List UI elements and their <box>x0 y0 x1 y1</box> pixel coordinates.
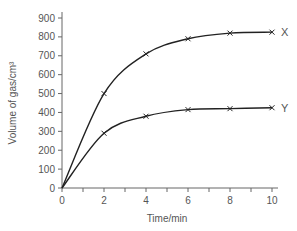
y-tick-label: 100 <box>38 164 55 175</box>
y-tick-label: 500 <box>38 88 55 99</box>
series-line-y <box>62 108 272 188</box>
y-tick-label: 400 <box>38 107 55 118</box>
x-tick-label: 0 <box>59 195 65 206</box>
data-point-marker <box>102 91 107 96</box>
x-tick-label: 10 <box>266 195 278 206</box>
line-chart: 01002003004005006007008009000246810 XY T… <box>0 0 297 231</box>
plot-area: XY <box>62 26 289 188</box>
y-tick-label: 800 <box>38 31 55 42</box>
x-tick-label: 4 <box>143 195 149 206</box>
series-label-y: Y <box>281 102 289 114</box>
y-tick-label: 300 <box>38 126 55 137</box>
x-tick-label: 8 <box>227 195 233 206</box>
data-point-marker <box>144 51 149 56</box>
x-tick-label: 2 <box>101 195 107 206</box>
y-axis-title: Volume of gas/cm³ <box>7 61 18 144</box>
x-axis-title: Time/min <box>147 213 188 224</box>
data-point-marker <box>102 131 107 136</box>
y-tick-label: 700 <box>38 50 55 61</box>
series-label-x: X <box>281 26 289 38</box>
y-tick-label: 900 <box>38 13 55 24</box>
x-tick-label: 6 <box>185 195 191 206</box>
y-tick-label: 600 <box>38 69 55 80</box>
y-tick-label: 200 <box>38 145 55 156</box>
y-tick-label: 0 <box>49 183 55 194</box>
series-line-x <box>62 32 272 188</box>
